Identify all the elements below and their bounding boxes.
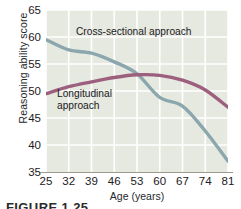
x-tick-label: 67 (176, 175, 189, 187)
x-tick-label: 46 (108, 175, 121, 187)
y-tick-label: 65 (17, 4, 41, 16)
series-label-longitudinal: Longitudinal approach (57, 88, 112, 111)
y-tick-label: 35 (17, 166, 41, 178)
y-tick-label: 45 (17, 112, 41, 124)
x-tick-label: 60 (153, 175, 166, 187)
x-tick-label: 81 (222, 175, 235, 187)
x-tick-label: 53 (131, 175, 144, 187)
x-tick-label: 25 (40, 175, 53, 187)
y-axis-tick-labels: 65605550454035 (17, 10, 41, 172)
x-tick-label: 32 (62, 175, 75, 187)
figure-chart: Reasoning ability score 65605550454035 2… (0, 0, 241, 209)
series-label-cross-sectional: Cross-sectional approach (76, 26, 192, 38)
x-axis-tick-labels: 253239465360677481 (46, 175, 228, 190)
figure-caption: FIGURE 1.25 (6, 201, 88, 209)
y-tick-label: 60 (17, 31, 41, 43)
x-tick-label: 39 (85, 175, 98, 187)
x-tick-label: 74 (199, 175, 212, 187)
x-axis-line (40, 172, 233, 173)
y-tick-label: 40 (17, 139, 41, 151)
y-tick-label: 55 (17, 58, 41, 70)
y-tick-label: 50 (17, 85, 41, 97)
